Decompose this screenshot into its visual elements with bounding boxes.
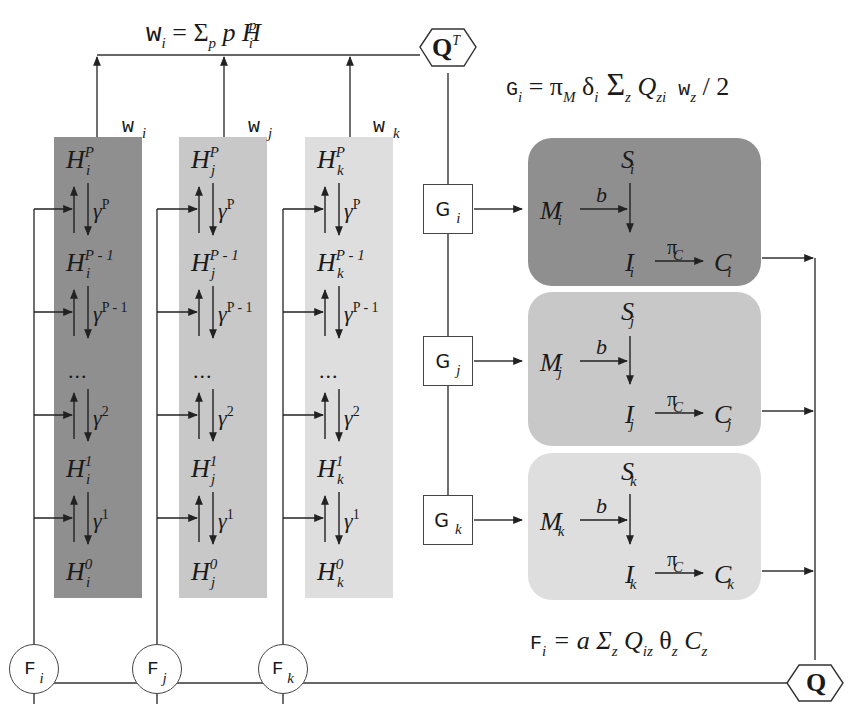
w-label-k: wk: [373, 117, 400, 141]
m-label-i: Mi: [540, 198, 562, 228]
m-label-j: Mj: [540, 350, 562, 380]
gamma-k-p: γP: [344, 198, 360, 222]
s-label-j: Sj: [621, 299, 634, 329]
h-sub-i-1: i: [86, 472, 90, 487]
g-box-i: Gi: [423, 184, 473, 234]
c-label-i: Ci: [714, 250, 732, 280]
s-label-k: Sk: [621, 459, 637, 489]
s-label-i: Si: [621, 147, 634, 177]
ellipsis-k: ...: [319, 358, 339, 384]
f-node-k: Fk: [258, 644, 308, 694]
gamma-i-p: γP: [93, 198, 109, 222]
h-sub-k-1: k: [337, 472, 344, 487]
gamma-k-p-minus-1: γP - 1: [344, 301, 379, 325]
h-sub-k-p-minus-1: k: [337, 266, 344, 281]
g-box-k: Gk: [423, 495, 473, 545]
ellipsis-j: ...: [193, 358, 213, 384]
i-label-i: Ii: [625, 250, 634, 280]
equation-f: Fi = a Σz Qiz θz Cz: [530, 628, 707, 659]
f-node-i: Fi: [9, 644, 59, 694]
f-node-j: Fj: [132, 644, 182, 694]
h-sub-j-p-minus-1: j: [211, 266, 215, 281]
gamma-j-p: γP: [218, 198, 234, 222]
gamma-j-p-minus-1: γP - 1: [218, 301, 253, 325]
h-sub-j-1: j: [211, 472, 215, 487]
g-box-j: Gj: [423, 336, 473, 386]
m-label-k: Mk: [540, 509, 564, 539]
gamma-i-p-minus-1: γP - 1: [93, 301, 128, 325]
c-label-k: Ck: [714, 562, 734, 592]
i-label-j: Ij: [625, 402, 634, 432]
h-sub-i-p-minus-1: i: [86, 266, 90, 281]
h-sub-k-p: k: [337, 163, 344, 178]
gamma-j-1: γ1: [218, 508, 234, 532]
h-sub-i-p: i: [86, 163, 90, 178]
c-label-j: Cj: [714, 402, 732, 432]
gamma-k-2: γ2: [344, 405, 360, 429]
w-label-i: wi: [122, 117, 146, 141]
b-label-j: b: [596, 336, 607, 358]
w-label-j: wj: [248, 117, 272, 141]
h-sub-j-p: j: [211, 163, 215, 178]
i-label-k: Ik: [625, 562, 636, 592]
b-label-i: b: [596, 184, 607, 206]
pi-c-label-k: πC: [667, 549, 683, 575]
gamma-k-1: γ1: [344, 508, 360, 532]
h-sub-k-0: k: [337, 575, 344, 590]
q-transpose-label: QT: [432, 34, 460, 61]
ellipsis-i: ...: [68, 358, 88, 384]
equation-g: Gi = πM δi Σz Qzi wz / 2: [506, 68, 729, 105]
gamma-i-2: γ2: [93, 405, 109, 429]
equation-w: wi = Σp p Hip: [146, 18, 257, 51]
gamma-j-2: γ2: [218, 405, 234, 429]
gamma-i-1: γ1: [93, 508, 109, 532]
b-label-k: b: [596, 495, 607, 517]
pi-c-label-i: πC: [667, 237, 683, 263]
h-sub-j-0: j: [211, 575, 215, 590]
pi-c-label-j: πC: [667, 389, 683, 415]
h-sub-i-0: i: [86, 575, 90, 590]
q-label: Q: [806, 670, 826, 696]
